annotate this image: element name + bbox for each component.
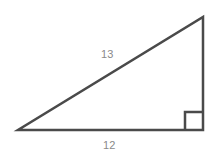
right-angle-marker-icon [185, 112, 203, 130]
base-length-label: 12 [103, 140, 116, 151]
hypotenuse-length-label: 13 [101, 49, 114, 60]
triangle-graphic [0, 0, 218, 159]
triangle-outline [18, 17, 203, 130]
right-triangle-figure: 13 12 [0, 0, 218, 159]
